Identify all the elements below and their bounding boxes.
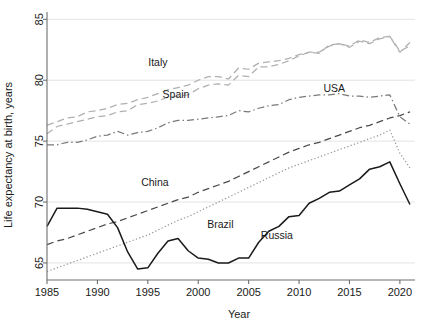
series-line-spain xyxy=(47,36,410,133)
series-label-spain: Spain xyxy=(163,88,190,100)
life-expectancy-chart: 6570758085198519901995200020052010201520… xyxy=(0,0,429,323)
x-tick-label: 2005 xyxy=(236,286,260,298)
series-line-usa xyxy=(47,94,410,145)
y-tick-label: 85 xyxy=(33,13,45,25)
series-label-russia: Russia xyxy=(261,229,293,241)
x-tick-label: 1990 xyxy=(85,286,109,298)
series-label-china: China xyxy=(141,176,169,188)
x-axis-title: Year xyxy=(228,308,251,320)
series-line-italy xyxy=(47,36,410,125)
plot-series-group xyxy=(47,36,410,271)
series-line-brazil xyxy=(47,130,410,271)
x-tick-label: 2000 xyxy=(186,286,210,298)
axes-group xyxy=(43,12,415,284)
x-tick-label: 2015 xyxy=(337,286,361,298)
y-axis-title: Life expectancy at birth, years xyxy=(2,81,14,228)
series-label-brazil: Brazil xyxy=(207,218,233,230)
y-tick-label: 65 xyxy=(33,257,45,269)
x-tick-label: 2020 xyxy=(388,286,412,298)
y-tick-label: 80 xyxy=(33,74,45,86)
x-tick-label: 2010 xyxy=(287,286,311,298)
series-label-italy: Italy xyxy=(148,56,168,68)
series-line-russia xyxy=(47,162,410,269)
y-tick-label: 70 xyxy=(33,196,45,208)
series-labels-group: ItalySpainUSAChinaBrazilRussia xyxy=(141,56,345,241)
chart-canvas: 6570758085198519901995200020052010201520… xyxy=(0,0,429,323)
series-label-usa: USA xyxy=(324,82,346,94)
y-tick-label: 75 xyxy=(33,135,45,147)
x-tick-label: 1985 xyxy=(35,286,59,298)
x-tick-label: 1995 xyxy=(136,286,160,298)
